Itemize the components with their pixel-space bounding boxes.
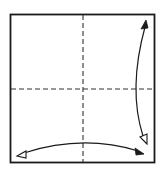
origami-diagram <box>0 0 160 171</box>
diagram-svg <box>0 0 160 171</box>
